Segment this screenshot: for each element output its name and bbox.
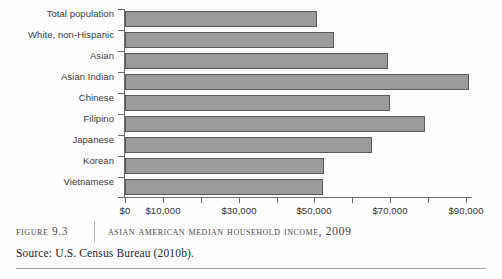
x-axis-tick-80000 <box>428 197 429 203</box>
figure-title: Asian American Median Household Income, … <box>108 224 352 239</box>
y-axis-tick <box>118 156 124 157</box>
x-axis-tick-60000 <box>352 197 353 203</box>
x-axis-label-90000: $90,000 <box>448 205 483 216</box>
figure-caption: Figure 9.3 Asian American Median Househo… <box>16 219 486 243</box>
bar-asian <box>125 53 388 69</box>
y-axis-label-japanese: Japanese <box>0 135 114 145</box>
y-axis-label-total-population: Total population <box>0 9 114 19</box>
x-axis-tick-0 <box>125 197 126 203</box>
x-axis-tick-20000 <box>201 197 202 203</box>
y-axis-tick <box>118 9 124 10</box>
bar-filipino <box>125 116 425 132</box>
y-axis-tick <box>118 197 124 198</box>
bar-chinese <box>125 95 390 111</box>
y-axis-label-white-non-hispanic: White, non-Hispanic <box>0 30 114 40</box>
y-axis-category-labels: Total population White, non-Hispanic Asi… <box>0 8 114 198</box>
bar-japanese <box>125 137 372 153</box>
y-axis-label-vietnamese: Vietnamese <box>0 177 114 187</box>
y-axis-tick <box>118 51 124 52</box>
y-axis-tick <box>118 135 124 136</box>
figure-number: Figure 9.3 <box>16 225 94 237</box>
x-axis-tick-30000 <box>239 197 240 203</box>
bar-white-non-hispanic <box>125 32 334 48</box>
x-axis-label-50000: $50,000 <box>296 205 331 216</box>
x-axis-label-30000: $30,000 <box>221 205 256 216</box>
x-axis-tick-70000 <box>390 197 391 203</box>
x-axis-line <box>124 197 472 198</box>
bar-total-population <box>125 11 317 27</box>
x-axis-tick-90000 <box>466 197 467 203</box>
y-axis-label-filipino: Filipino <box>0 114 114 124</box>
bar-asian-indian <box>125 74 469 90</box>
bar-vietnamese <box>125 179 323 195</box>
x-axis-label-0: $0 <box>120 205 131 216</box>
x-axis-tick-40000 <box>277 197 278 203</box>
x-axis-label-70000: $70,000 <box>372 205 407 216</box>
figure-container: Total population White, non-Hispanic Asi… <box>0 0 502 279</box>
y-axis-tick <box>118 30 124 31</box>
y-axis-label-asian-indian: Asian Indian <box>0 72 114 82</box>
source-note: Source: U.S. Census Bureau (2010b). <box>16 247 194 259</box>
y-axis-tick <box>118 72 124 73</box>
y-axis-tick <box>118 177 124 178</box>
caption-divider <box>94 221 95 242</box>
x-axis-label-10000: $10,000 <box>145 205 180 216</box>
x-axis-tick-50000 <box>314 197 315 203</box>
y-axis-tick <box>118 114 124 115</box>
y-axis-label-asian: Asian <box>0 51 114 61</box>
x-axis-tick-10000 <box>163 197 164 203</box>
y-axis-tick <box>118 93 124 94</box>
bar-korean <box>125 158 324 174</box>
bar-chart: Total population White, non-Hispanic Asi… <box>0 0 502 205</box>
y-axis-label-chinese: Chinese <box>0 93 114 103</box>
bottom-divider <box>16 268 486 269</box>
y-axis-label-korean: Korean <box>0 156 114 166</box>
